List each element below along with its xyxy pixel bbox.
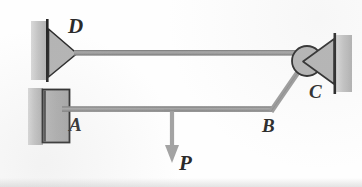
label-point-a: A — [69, 115, 82, 134]
label-load-p: P — [179, 153, 192, 174]
wall-right — [334, 33, 353, 94]
load-arrow-P — [164, 109, 180, 163]
wall-left-upper — [31, 19, 49, 82]
figure-canvas: D A B C P — [0, 0, 362, 187]
member-top-DC — [74, 50, 302, 56]
label-point-d: D — [68, 16, 83, 37]
label-point-c: C — [309, 82, 322, 101]
wall-left-lower — [28, 88, 43, 145]
label-point-b: B — [262, 116, 275, 135]
fixed-block-A — [43, 90, 70, 143]
